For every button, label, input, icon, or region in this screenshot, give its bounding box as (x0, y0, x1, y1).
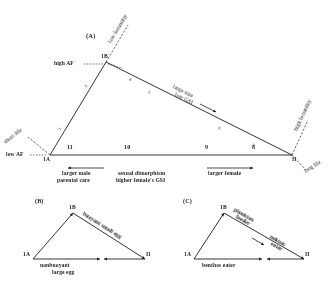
panel-b-annotation-nonbuoyant: nonbuoyant (40, 263, 70, 269)
panel-a-caption-sexual-dimorphism: sexual dimorphism (118, 171, 165, 177)
panel-b-annotation-large-egg: large egg (52, 270, 75, 276)
panel-c-vertex-ii: II (305, 252, 310, 258)
panel-a-hypotenuse-arrow (200, 104, 216, 112)
panel-c-label: (C) (183, 198, 192, 204)
panel-a-vertex-arrows (30, 64, 122, 155)
figure-canvas: (A) low fecundity short life high fecund… (0, 0, 336, 282)
panel-b-vertex-ii: II (146, 252, 151, 258)
panel-c-annotation-benthos-eater: benthos eater (202, 263, 235, 269)
panel-a-vertex-1a: 1A (43, 157, 50, 163)
panel-a-axis-number-bottom-0: 11 (67, 144, 73, 150)
panel-a-vertex-ii: II (292, 157, 297, 163)
panel-b-vertex-1a: 1A (23, 252, 30, 258)
panel-a-caption-parental-care: parental care (57, 178, 90, 184)
figure-svg (0, 0, 336, 282)
panel-a-caption-higher-female-gsi: higher female's GSI (116, 178, 165, 184)
panel-b-label: (B) (35, 198, 43, 204)
panel-a-axis-number-bottom-2: 9 (205, 144, 208, 150)
panel-a-vertex-1b: 1B (101, 54, 108, 60)
panel-a-axis-number-bottom-3: 8 (252, 144, 255, 150)
panel-a-label-high-af: high AF (54, 61, 74, 67)
panel-a-label-low-af: low AF (6, 152, 24, 158)
panel-a-axis-number-bottom-1: 10 (124, 144, 130, 150)
panel-b-vertex-1b: 1B (69, 205, 76, 211)
panel-a-caption-larger-male: larger male (62, 171, 91, 177)
panel-a-label: (A) (86, 33, 95, 40)
panel-a-triangle (50, 62, 292, 155)
panel-c-vertex-1b: 1B (220, 205, 227, 211)
panel-a-caption-larger-female: larger female (208, 171, 241, 177)
panel-c-vertex-1a: 1A (184, 252, 191, 258)
